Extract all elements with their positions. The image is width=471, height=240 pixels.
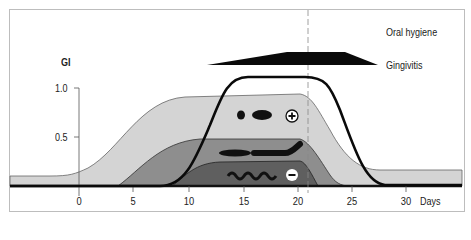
legend-gingivitis: Gingivitis <box>386 59 423 71</box>
legend-oral-hygiene: Oral hygiene <box>386 26 437 38</box>
gingivitis-wedge <box>207 52 378 65</box>
rod-icon <box>219 150 251 157</box>
y-tick-05: 0.5 <box>55 131 68 143</box>
x-tick-5: 5 <box>130 195 135 207</box>
coccus-icon <box>237 111 245 120</box>
coccus-oval-icon <box>252 110 272 120</box>
x-tick-10: 10 <box>184 195 194 207</box>
y-axis-label: GI <box>61 56 71 68</box>
y-tick-1: 1.0 <box>55 82 68 94</box>
x-tick-25: 25 <box>347 195 357 207</box>
x-tick-0: 0 <box>76 195 81 207</box>
x-tick-20: 20 <box>293 195 303 207</box>
x-tick-30: 30 <box>401 195 411 207</box>
x-tick-15: 15 <box>239 195 249 207</box>
x-axis-label: Days <box>420 195 441 207</box>
